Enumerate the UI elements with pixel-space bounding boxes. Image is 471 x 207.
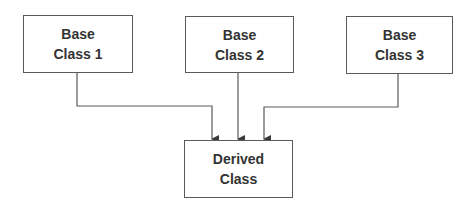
node-derived-class: Derived Class: [184, 140, 293, 198]
node-label-line2: Class: [220, 169, 257, 189]
node-label-line1: Base: [223, 25, 256, 45]
node-base-class-3: Base Class 3: [346, 16, 453, 74]
node-label-line2: Class 2: [215, 45, 264, 65]
node-base-class-2: Base Class 2: [185, 16, 294, 73]
edge-base1-to-derived: [77, 72, 212, 139]
node-label-line1: Base: [61, 24, 94, 44]
node-base-class-1: Base Class 1: [23, 15, 133, 73]
inheritance-diagram: Base Class 1 Base Class 2 Base Class 3 D…: [0, 0, 471, 207]
node-label-line2: Class 3: [375, 45, 424, 65]
edge-base3-to-derived: [264, 73, 398, 139]
node-label-line1: Base: [383, 25, 416, 45]
node-label-line1: Derived: [213, 149, 264, 169]
node-label-line2: Class 1: [53, 44, 102, 64]
